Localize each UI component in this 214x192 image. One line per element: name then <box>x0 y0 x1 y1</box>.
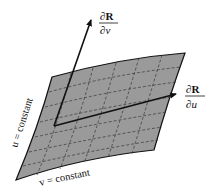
svg-text:∂u: ∂u <box>186 98 197 110</box>
surface-patch <box>16 53 185 180</box>
dRdu-label: ∂R ∂u <box>185 83 205 110</box>
svg-text:∂R: ∂R <box>100 10 114 22</box>
u-constant-label: u = constant <box>8 96 34 148</box>
svg-text:∂v: ∂v <box>100 24 110 36</box>
svg-text:∂R: ∂R <box>186 83 200 95</box>
surface-diagram: ∂R ∂v ∂R ∂u u = constant v = constant <box>0 0 214 192</box>
dRdv-label: ∂R ∂v <box>99 10 118 36</box>
